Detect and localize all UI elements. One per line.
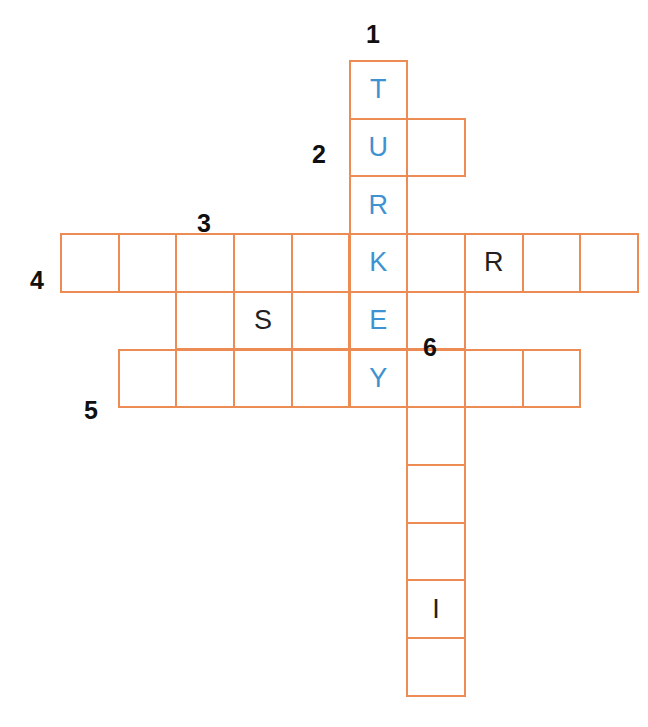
clue-number-6: 6 (423, 335, 437, 360)
crossword-cell[interactable]: U (349, 118, 409, 178)
crossword-cell[interactable] (464, 349, 524, 409)
crossword-cell[interactable] (406, 637, 466, 697)
crossword-cell[interactable]: K (349, 233, 409, 293)
clue-number-1: 1 (366, 22, 380, 47)
crossword-cell[interactable] (406, 406, 466, 466)
clue-number-2: 2 (312, 142, 326, 167)
crossword-cell[interactable] (406, 464, 466, 524)
crossword-cell[interactable]: I (406, 579, 466, 639)
crossword-cell[interactable] (233, 233, 293, 293)
crossword-cell[interactable] (175, 349, 235, 409)
crossword-cell[interactable]: S (233, 291, 293, 351)
crossword-puzzle: TURKRSEYI123456 (0, 0, 648, 727)
crossword-cell[interactable] (175, 233, 235, 293)
crossword-cell[interactable] (522, 233, 582, 293)
crossword-cell[interactable]: R (464, 233, 524, 293)
crossword-cell[interactable] (291, 349, 351, 409)
crossword-cell[interactable]: E (349, 291, 409, 351)
crossword-cell[interactable] (60, 233, 120, 293)
crossword-cell[interactable] (579, 233, 639, 293)
crossword-cell[interactable] (522, 349, 582, 409)
clue-number-5: 5 (84, 398, 98, 423)
crossword-cell[interactable]: Y (349, 349, 409, 409)
crossword-cell[interactable] (175, 291, 235, 351)
crossword-cell[interactable] (291, 233, 351, 293)
crossword-cell[interactable] (118, 349, 178, 409)
crossword-cell[interactable] (233, 349, 293, 409)
clue-number-3: 3 (197, 211, 211, 236)
crossword-cell[interactable] (406, 522, 466, 582)
clue-number-4: 4 (30, 268, 44, 293)
crossword-cell[interactable] (118, 233, 178, 293)
crossword-cell[interactable]: R (349, 175, 409, 235)
crossword-cell[interactable] (406, 233, 466, 293)
crossword-cell[interactable] (291, 291, 351, 351)
crossword-cell[interactable]: T (349, 60, 409, 120)
crossword-cell[interactable] (406, 118, 466, 178)
